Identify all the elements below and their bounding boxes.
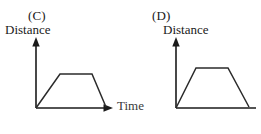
panel-d-y-axis-arrow-icon: [172, 37, 179, 47]
panel-c: (C) Distance Time: [0, 0, 150, 134]
panel-d-data-curve: [176, 68, 249, 108]
panel-c-plot: [0, 0, 150, 134]
distance-time-graph-figure: (C) Distance Time (D) Distance: [0, 0, 261, 134]
panel-d-plot: [146, 0, 261, 134]
panel-d: (D) Distance: [146, 0, 261, 134]
panel-c-y-axis-arrow-icon: [32, 37, 39, 47]
panel-c-data-curve: [36, 74, 106, 108]
